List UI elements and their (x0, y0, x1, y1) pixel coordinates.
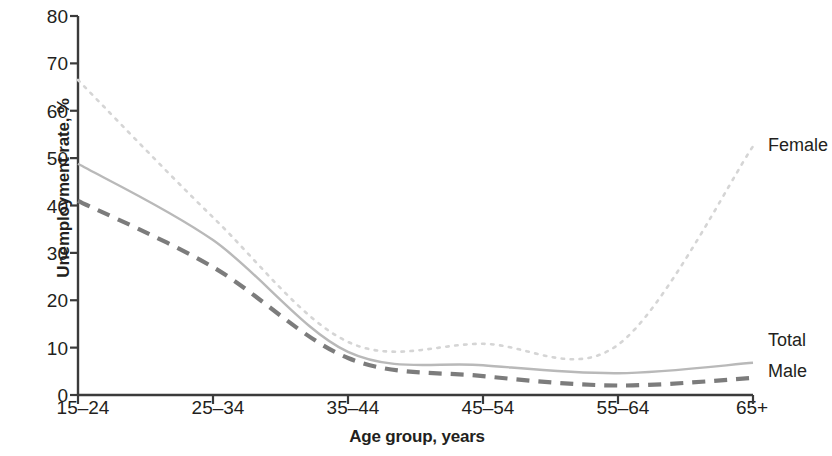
series-line-total (78, 164, 753, 373)
plot-area (0, 0, 832, 456)
series-lines (78, 80, 753, 386)
x-axis-tick-marks (78, 395, 753, 404)
series-line-male (78, 201, 753, 386)
unemployment-rate-by-age-chart: Unemployment rate, % 80 70 60 50 40 30 2… (0, 0, 832, 456)
axes-lines (70, 16, 753, 404)
